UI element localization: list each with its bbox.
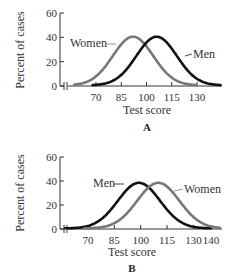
panel-a-x-axis-title: Test score bbox=[123, 103, 171, 117]
panel-a-chart: Percent of cases 02040607085100115130 Wo… bbox=[13, 7, 222, 133]
panel-b-chart: Percent of cases 02040607085100115130140… bbox=[13, 151, 222, 274]
y-tick-label: 0 bbox=[52, 80, 58, 92]
y-tick-label: 60 bbox=[46, 151, 58, 163]
panel-a-y-axis-title: Percent of cases bbox=[13, 11, 27, 89]
y-tick-label: 20 bbox=[46, 56, 58, 68]
x-tick-label: 115 bbox=[159, 234, 176, 246]
chart-figure: Percent of cases 02040607085100115130 Wo… bbox=[0, 0, 235, 275]
x-tick-label: 100 bbox=[138, 91, 155, 103]
y-tick-label: 40 bbox=[46, 31, 58, 43]
y-tick-label: 20 bbox=[46, 199, 58, 211]
panel-a-letter: A bbox=[143, 121, 151, 133]
y-tick-label: 40 bbox=[46, 175, 58, 187]
panel-b-letter: B bbox=[128, 262, 136, 274]
x-tick-label: 130 bbox=[189, 91, 206, 103]
x-tick-label: 70 bbox=[91, 91, 103, 103]
y-tick-label: 0 bbox=[52, 223, 58, 235]
y-tick-label: 60 bbox=[46, 7, 58, 19]
x-tick-label: 115 bbox=[164, 91, 181, 103]
panel-a-men-leader bbox=[185, 54, 192, 56]
panel-a-men-label: Men bbox=[193, 47, 215, 61]
panel-b-axes: 02040607085100115130140 bbox=[46, 151, 222, 246]
panel-b-x-axis-title: Test score bbox=[108, 245, 156, 259]
panel-b-y-axis-title: Percent of cases bbox=[13, 154, 27, 232]
x-tick-label: 140 bbox=[203, 234, 220, 246]
panel-b-women-label: Women bbox=[184, 182, 221, 196]
panel-a-women-label: Women bbox=[70, 36, 107, 50]
x-tick-label: 85 bbox=[116, 91, 128, 103]
x-tick-label: 70 bbox=[83, 234, 95, 246]
panel-b-men-label: Men bbox=[93, 176, 115, 190]
x-tick-label: 130 bbox=[185, 234, 202, 246]
panel-b-women-leader bbox=[174, 189, 183, 191]
